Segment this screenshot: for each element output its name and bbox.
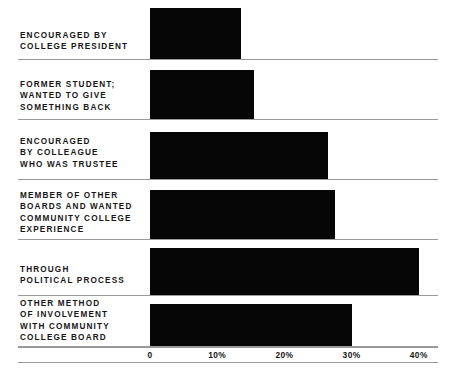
row-separator (18, 119, 438, 120)
bar-category-label: THROUGH POLITICAL PROCESS (20, 264, 148, 287)
row-separator (18, 59, 438, 60)
bar (150, 304, 352, 346)
x-axis-tick-label: 40% (410, 349, 428, 361)
chart-row: MEMBER OF OTHER BOARDS AND WANTED COMMUN… (0, 184, 450, 240)
x-axis-tick-label: 20% (275, 349, 293, 361)
x-axis-tick-label: 30% (343, 349, 361, 361)
chart-row: THROUGH POLITICAL PROCESS (0, 244, 450, 296)
bar-category-label: FORMER STUDENT; WANTED TO GIVE SOMETHING… (20, 79, 148, 113)
chart-row: ENCOURAGED BY COLLEGE PRESIDENT (0, 4, 450, 60)
bar-category-label: MEMBER OF OTHER BOARDS AND WANTED COMMUN… (20, 190, 148, 236)
bar-category-label: ENCOURAGED BY COLLEGE PRESIDENT (20, 30, 148, 53)
chart-row: ENCOURAGED BY COLLEAGUE WHO WAS TRUSTEE (0, 124, 450, 180)
x-axis: 010%20%30%40% (0, 347, 450, 369)
x-axis-tick-label: 0 (147, 349, 152, 361)
bar-category-label: OTHER METHOD OF INVOLVEMENT WITH COMMUNI… (20, 298, 148, 344)
row-separator (18, 295, 438, 296)
bar (150, 70, 254, 119)
bar (150, 132, 328, 179)
bar (150, 190, 335, 239)
row-separator (18, 179, 438, 180)
row-separator (18, 239, 438, 240)
axis-rule-bottom (18, 362, 438, 363)
axis-rule-top (18, 347, 438, 348)
bar (150, 8, 241, 59)
bar (150, 248, 419, 295)
chart-row: FORMER STUDENT; WANTED TO GIVE SOMETHING… (0, 64, 450, 120)
horizontal-bar-chart: ENCOURAGED BY COLLEGE PRESIDENTFORMER ST… (0, 0, 450, 379)
x-axis-tick-label: 10% (208, 349, 226, 361)
chart-row: OTHER METHOD OF INVOLVEMENT WITH COMMUNI… (0, 300, 450, 347)
bar-category-label: ENCOURAGED BY COLLEAGUE WHO WAS TRUSTEE (20, 136, 148, 170)
